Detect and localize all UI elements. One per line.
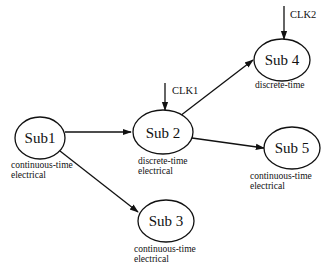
node-sub5-type-line2: electrical	[250, 181, 285, 191]
node-sub2-type-line2: electrical	[138, 166, 173, 176]
clk2-label: CLK2	[290, 9, 316, 20]
edge-sub2-sub5	[192, 138, 264, 148]
clk1-label: CLK1	[172, 85, 198, 96]
node-sub2-label: Sub 2	[146, 125, 181, 141]
node-sub3: Sub 3 continuous-time electrical	[134, 200, 196, 264]
node-sub4-type-line1: discrete-time	[255, 80, 305, 90]
node-sub3-type-line2: electrical	[134, 254, 169, 264]
node-sub4: Sub 4 discrete-time CLK2	[254, 9, 316, 90]
node-sub4-label: Sub 4	[265, 52, 300, 68]
node-sub3-type-line1: continuous-time	[134, 244, 196, 254]
node-sub5-label: Sub 5	[275, 140, 310, 156]
node-sub1-type-line2: electrical	[11, 170, 46, 180]
node-sub5-type-line1: continuous-time	[250, 171, 312, 181]
node-sub2-type-line1: discrete-time	[138, 156, 188, 166]
node-sub3-label: Sub 3	[149, 213, 184, 229]
node-sub5: Sub 5 continuous-time electrical	[250, 127, 320, 191]
node-sub1-label: Sub1	[25, 130, 56, 146]
node-sub1-type-line1: continuous-time	[11, 160, 73, 170]
subsystem-diagram: Sub1 continuous-time electrical Sub 2 di…	[0, 0, 333, 274]
node-sub1: Sub1 continuous-time electrical	[11, 117, 73, 180]
